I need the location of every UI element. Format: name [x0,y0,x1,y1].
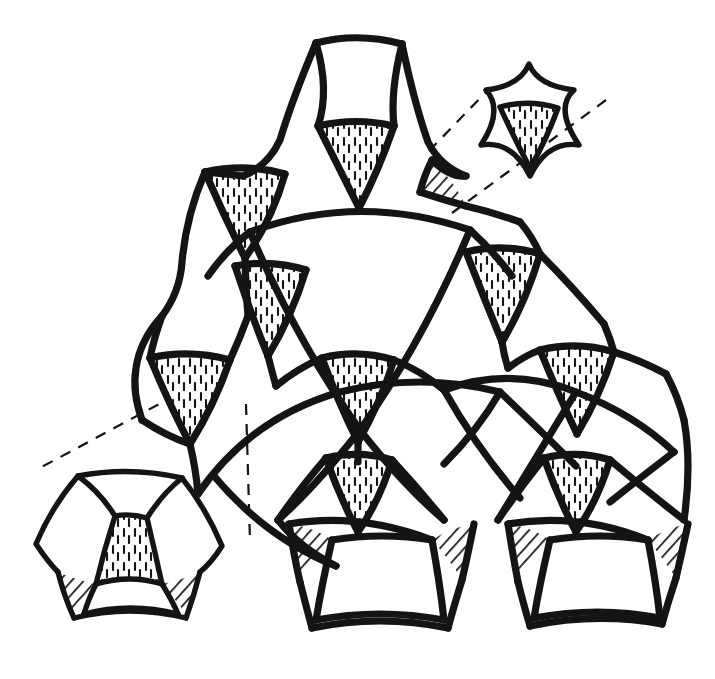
cross-arc-lr-d [684,420,688,520]
tiling-diagram [0,0,715,679]
figure-root: Curved pentagonal tiling with magnified … [0,0,715,679]
inset-bl-apex [115,515,147,518]
tile-lc-base-inner [332,536,432,540]
tile-lr-base-inner [550,536,648,540]
